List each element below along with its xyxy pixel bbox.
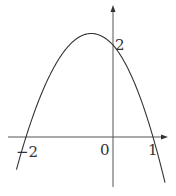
parabola-plot: 2 0 −2 1	[0, 0, 176, 196]
x-axis-arrow-icon	[161, 135, 168, 140]
x-right-label: 1	[148, 141, 158, 159]
parabola-curve	[16, 34, 165, 183]
origin-label: 0	[100, 141, 110, 159]
x-left-label: −2	[16, 143, 38, 161]
y-intercept-label: 2	[115, 36, 125, 54]
y-axis-arrow-icon	[111, 5, 116, 12]
